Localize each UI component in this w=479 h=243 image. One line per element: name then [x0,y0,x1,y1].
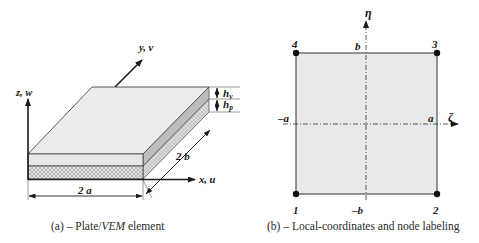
figure-b-local-coordinates: η ζ –a a b –b 1 2 3 4 (b) – Local-coordi… [267,6,460,233]
dimension-2b-label: 2 b [175,150,190,162]
plate-layer-front-face [28,166,143,179]
bound-top-label: b [355,40,361,52]
eta-axis-label: η [365,6,372,20]
bound-bottom-label: –b [351,204,364,216]
z-axis-label: z, w [15,87,33,98]
node-2-label: 2 [432,204,439,216]
figure-canvas: z, w x, u y, v 2 a 2 b hv hp (a) – Plate… [0,0,479,243]
node-2-marker [434,191,440,197]
node-4-marker [293,50,299,56]
bound-left-label: –a [277,112,290,124]
y-axis-label: y, v [137,42,154,53]
element-square [296,53,437,194]
node-1-label: 1 [293,204,299,216]
node-4-label: 4 [291,38,298,50]
node-1-marker [293,191,299,197]
node-3-marker [434,50,440,56]
vem-layer-front-face [28,154,143,166]
zeta-axis-label: ζ [448,110,454,124]
bound-right-label: a [428,112,434,124]
node-3-label: 3 [431,38,438,50]
figure-b-caption: (b) – Local-coordinates and node labelin… [267,220,460,233]
dimension-2a-label: 2 a [77,184,92,196]
y-axis-arrow [115,60,142,87]
figure-a-caption: (a) – Plate/VEM element [51,220,165,233]
x-axis-label: x, u [198,174,216,185]
figure-a-plate-vem-element: z, w x, u y, v 2 a 2 b hv hp (a) – Plate… [15,42,240,233]
